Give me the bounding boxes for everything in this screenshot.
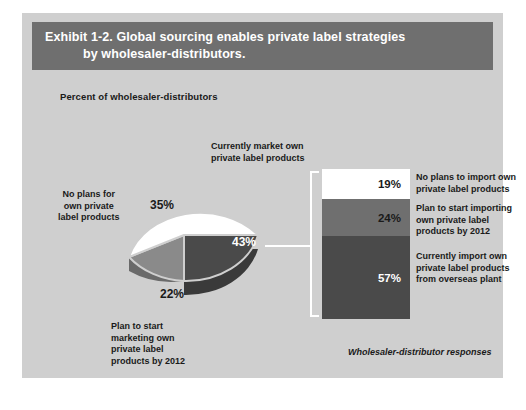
exhibit-title-line-2: by wholesaler-distributors. (45, 46, 493, 63)
bar-value-no-plans-import: 19% (378, 178, 401, 190)
pie-value-plan-to-start: 22% (160, 287, 184, 301)
pie-label-plan-to-start: Plan to startmarketing ownprivate labelp… (111, 321, 185, 367)
chart-footnote: Wholesaler-distributor responses (348, 347, 492, 357)
bar-segment-plan-import: 24% (322, 199, 410, 236)
callout-bracket (310, 171, 319, 317)
stacked-bar-chart: 19% 24% 57% (322, 169, 410, 319)
callout-leader-line (265, 245, 311, 247)
pie-label-no-plans: No plans forown privatelabel products (58, 189, 120, 224)
bar-value-plan-import: 24% (378, 212, 401, 224)
chart-subtitle: Percent of wholesaler-distributors (60, 91, 218, 102)
pie-value-currently-market: 43% (232, 235, 256, 249)
bar-label-plan-import: Plan to start importingown private label… (416, 203, 512, 238)
bar-segment-no-plans-import: 19% (322, 169, 410, 199)
bar-segment-currently-import: 57% (322, 236, 410, 319)
pie-label-currently-market: Currently market ownprivate label produc… (211, 141, 305, 164)
bar-label-currently-import: Currently import ownprivate label produc… (416, 251, 510, 286)
pie-value-no-plans: 35% (150, 198, 174, 212)
bar-label-no-plans-import: No plans to import ownprivate label prod… (416, 172, 516, 195)
bar-value-currently-import: 57% (378, 272, 401, 284)
exhibit-canvas: Exhibit 1-2. Global sourcing enables pri… (22, 13, 503, 378)
exhibit-title-banner: Exhibit 1-2. Global sourcing enables pri… (32, 22, 493, 70)
exhibit-title-line-1: Exhibit 1-2. Global sourcing enables pri… (45, 30, 405, 44)
